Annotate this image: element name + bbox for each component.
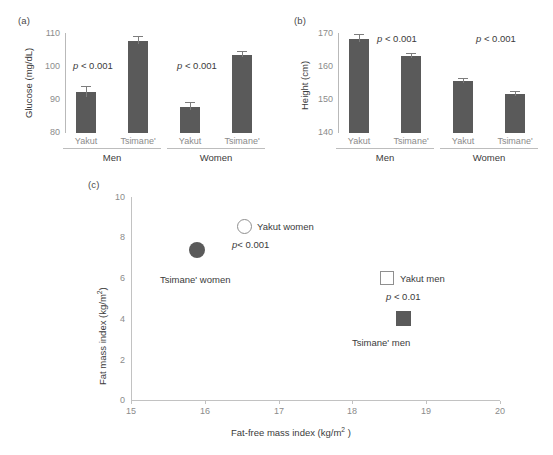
panel-a-bar-yakut-women — [180, 107, 200, 133]
panel-c-xtickmark-16 — [205, 401, 206, 404]
panel-a-errorcap-yakut-men — [81, 86, 91, 87]
panel-a-ytick-90: 90 — [39, 95, 60, 104]
panel-a-group-label-women: Women — [167, 153, 265, 163]
panel-c-ytick-2: 2 — [105, 356, 125, 365]
panel-a-errorbar-yakut-men — [86, 86, 87, 97]
panel-c-point-yakut-women[interactable] — [237, 219, 252, 234]
panel-c-ytick-6: 6 — [105, 274, 125, 283]
panel-b-bar-yakut-men — [349, 39, 369, 133]
panel-c-xtickmark-17 — [279, 401, 280, 404]
panel-c-point-tsimane-men[interactable] — [396, 311, 411, 326]
panel-b-bar-tsimane-women — [505, 94, 525, 133]
panel-a-bar-tsimane-men — [128, 41, 148, 133]
panel-b-ytick-160: 160 — [308, 62, 333, 71]
panel-b-errorcap-tsimane-women — [510, 91, 520, 92]
panel-c-x-axis-title-close: ) — [345, 427, 351, 438]
panel-b-pvalue-women: p < 0.001 — [476, 34, 516, 44]
panel-b-y-axis-line — [338, 33, 339, 133]
panel-a-ytick-110: 110 — [39, 29, 60, 38]
panel-a-ytick-100: 100 — [39, 62, 60, 71]
panel-b-catlabel-yakut-men: Yakut — [335, 137, 383, 146]
panel-b-group-rule-women — [440, 148, 538, 149]
panel-a-pvalue-men: p < 0.001 — [73, 61, 113, 71]
panel-c-point-yakut-men[interactable] — [380, 271, 394, 285]
panel-c-y-axis-title-text: Fat mass index (kg/m — [97, 294, 108, 385]
panel-c-xtick-16: 16 — [190, 407, 220, 416]
panel-b-pvalue-men: p < 0.001 — [377, 34, 417, 44]
panel-c-y-axis-title-close: ) — [97, 287, 108, 290]
panel-b-group-label-men: Men — [336, 153, 434, 163]
panel-c-y-axis-title-exponent: 2 — [96, 290, 103, 294]
panel-c-label-yakut-women: Yakut women — [257, 222, 314, 232]
panel-b-group-label-women: Women — [440, 153, 538, 163]
panel-c-label-tsimane-men: Tsimane' men — [352, 338, 410, 348]
panel-c-label-tsimane-women: Tsimane' women — [160, 275, 230, 285]
panel-a-errorcap-tsimane-men — [133, 36, 143, 37]
panel-a-pvalue-women: p < 0.001 — [177, 61, 217, 71]
panel-c-label-yakut-men: Yakut men — [400, 274, 445, 284]
panel-c-tag: (c) — [88, 179, 100, 190]
panel-b-bar-tsimane-men — [401, 56, 421, 133]
panel-c-y-axis-title: Fat mass index (kg/m2) — [98, 287, 108, 385]
panel-c-xtickmark-18 — [352, 401, 353, 404]
panel-c-pvalue-women-text: < 0.001 — [237, 239, 269, 250]
panel-c-xtickmark-20 — [500, 401, 501, 404]
panel-a-bar-yakut-men — [76, 92, 96, 133]
panel-a-catlabel-tsimane-men: Tsimane' — [114, 137, 162, 146]
panel-b-pvalue-women-text: < 0.001 — [481, 33, 516, 44]
panel-a-group-label-men: Men — [63, 153, 161, 163]
panel-a-tag: (a) — [18, 15, 30, 26]
panel-a-bar-tsimane-women — [232, 55, 252, 133]
panel-c-ytick-8: 8 — [105, 233, 125, 242]
panel-b-ytick-150: 150 — [308, 95, 333, 104]
panel-b-bar-yakut-women — [453, 81, 473, 133]
panel-a-ytick-80: 80 — [39, 128, 60, 137]
panel-b-tag: (b) — [294, 15, 306, 26]
panel-c-x-axis-title-text: Fat-free mass index (kg/m — [231, 427, 341, 438]
panel-c-point-tsimane-women[interactable] — [189, 242, 205, 258]
panel-c-pvalue-men-text: < 0.01 — [391, 291, 420, 302]
panel-a-errorbar-yakut-women — [190, 102, 191, 110]
panel-b-group-rule-men — [336, 148, 434, 149]
panel-b-catlabel-yakut-women: Yakut — [439, 137, 487, 146]
panel-a-group-rule-men — [63, 148, 161, 149]
panel-a-pvalue-men-text: < 0.001 — [78, 60, 113, 71]
panel-c-x-axis-title: Fat-free mass index (kg/m2 ) — [231, 428, 351, 438]
panel-c-xtick-15: 15 — [116, 407, 146, 416]
panel-a-errorbar-tsimane-men — [138, 36, 139, 44]
panel-c-xtick-20: 20 — [485, 407, 515, 416]
panel-a-catlabel-tsimane-women: Tsimane' — [218, 137, 266, 146]
panel-a-group-rule-women — [167, 148, 265, 149]
panel-b-errorcap-yakut-women — [458, 78, 468, 79]
panel-a-catlabel-yakut-women: Yakut — [166, 137, 214, 146]
panel-c-xtick-19: 19 — [411, 407, 441, 416]
panel-b-pvalue-men-text: < 0.001 — [382, 33, 417, 44]
panel-b-ytick-170: 170 — [308, 29, 333, 38]
panel-b-catlabel-tsimane-women: Tsimane' — [491, 137, 539, 146]
panel-c-ytick-4: 4 — [105, 315, 125, 324]
panel-a-y-axis-line — [65, 33, 66, 133]
panel-c-xtick-17: 17 — [264, 407, 294, 416]
panel-b-errorcap-yakut-men — [354, 34, 364, 35]
panel-c-ytick-10: 10 — [105, 193, 125, 202]
panel-c-xtickmark-19 — [426, 401, 427, 404]
panel-c-y-axis-line — [131, 197, 132, 401]
panel-b-errorbar-yakut-men — [359, 34, 360, 42]
panel-a: (a) Glucose (mg/dL) 110 100 90 80 p < 0.… — [0, 0, 276, 170]
panel-b-errorcap-tsimane-men — [406, 53, 416, 54]
panel-a-errorcap-tsimane-women — [237, 51, 247, 52]
panel-c: (c) Fat mass index (kg/m2) 10 8 6 4 2 0 … — [0, 170, 553, 455]
panel-a-errorcap-yakut-women — [185, 102, 195, 103]
panel-c-xtick-18: 18 — [337, 407, 367, 416]
panel-b-ytick-140: 140 — [308, 128, 333, 137]
panel-c-ytick-0: 0 — [105, 396, 125, 405]
panel-c-x-axis-line — [131, 400, 500, 401]
panel-c-pvalue-men: p < 0.01 — [386, 292, 421, 302]
panel-b: (b) Height (cm) 170 160 150 140 p < 0.00… — [276, 0, 553, 170]
panel-a-catlabel-yakut-men: Yakut — [62, 137, 110, 146]
panel-c-pvalue-women: p< 0.001 — [232, 240, 269, 250]
panel-a-y-axis-title: Glucose (mg/dL) — [24, 48, 34, 118]
panel-a-pvalue-women-text: < 0.001 — [182, 60, 217, 71]
panel-c-xtickmark-15 — [131, 401, 132, 404]
panel-b-catlabel-tsimane-men: Tsimane' — [387, 137, 435, 146]
